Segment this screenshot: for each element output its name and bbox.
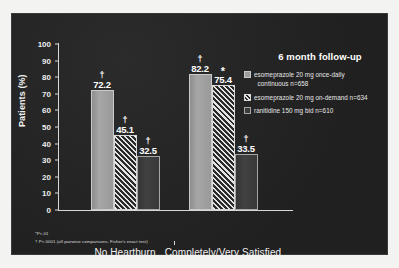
category-label: No Heartburn bbox=[94, 247, 155, 255]
y-tick-label: 80 bbox=[42, 73, 51, 82]
category-label: Completely/Very Satisfied bbox=[165, 247, 281, 255]
legend-title: 6 month follow-up bbox=[254, 51, 386, 62]
y-tick-label: 0 bbox=[47, 206, 51, 215]
bar-significance-marker: † bbox=[243, 135, 248, 144]
legend-swatch bbox=[244, 107, 251, 114]
legend-label: esomeprazole 20 mg on-demand n=634 bbox=[254, 93, 368, 102]
footnote-star: *P<.01 bbox=[35, 230, 148, 237]
category-divider-tick bbox=[174, 241, 175, 245]
legend-item: ranitidine 150 mg bid n=610 bbox=[244, 106, 386, 115]
y-tick-label: 10 bbox=[42, 189, 51, 198]
legend-item: esomeprazole 20 mg once-daily continuous… bbox=[244, 70, 386, 88]
legend-swatch bbox=[244, 71, 251, 78]
legend-label: ranitidine 150 mg bid n=610 bbox=[254, 106, 333, 115]
y-tick-mark bbox=[55, 44, 59, 45]
legend-swatch bbox=[244, 94, 251, 101]
y-tick-mark bbox=[55, 143, 59, 144]
bar-value-label: 33.5 bbox=[237, 143, 255, 154]
y-tick-mark bbox=[55, 60, 59, 61]
bar-value-label: 45.1 bbox=[116, 124, 134, 135]
footnote-dagger: † P<.0001 (all pairwise comparisons, Fis… bbox=[35, 238, 148, 245]
y-axis-title: Patients (%) bbox=[17, 74, 27, 127]
bar-significance-marker: † bbox=[99, 71, 104, 80]
y-tick-label: 60 bbox=[42, 106, 51, 115]
bar-value-label: 32.5 bbox=[139, 145, 157, 156]
bar-significance-marker: † bbox=[122, 116, 127, 125]
bar: 32.5† bbox=[137, 156, 160, 210]
bar: 82.2† bbox=[189, 74, 212, 210]
y-tick-label: 90 bbox=[42, 56, 51, 65]
chart-panel: Patients (%) 0102030405060708090100 72.2… bbox=[11, 13, 388, 255]
bar-significance-marker: † bbox=[145, 137, 150, 146]
y-tick-label: 100 bbox=[38, 40, 51, 49]
x-axis-line bbox=[58, 210, 293, 211]
plot-area: 0102030405060708090100 72.2†45.1†32.5†82… bbox=[59, 44, 259, 210]
bar-significance-marker: * bbox=[221, 66, 225, 77]
bar: 45.1† bbox=[114, 135, 137, 210]
y-tick-label: 40 bbox=[42, 139, 51, 148]
slide-canvas: Patients (%) 0102030405060708090100 72.2… bbox=[0, 0, 399, 268]
legend-item: esomeprazole 20 mg on-demand n=634 bbox=[244, 93, 386, 102]
y-tick-label: 30 bbox=[42, 156, 51, 165]
y-tick-label: 50 bbox=[42, 123, 51, 132]
y-tick-mark bbox=[55, 193, 59, 194]
legend-label: esomeprazole 20 mg once-daily continuous… bbox=[254, 70, 345, 88]
y-tick-mark bbox=[55, 127, 59, 128]
y-tick-mark bbox=[55, 176, 59, 177]
y-tick-mark bbox=[55, 160, 59, 161]
bar: 72.2† bbox=[91, 90, 114, 210]
chart-legend: 6 month follow-up esomeprazole 20 mg onc… bbox=[244, 51, 386, 120]
y-tick-mark bbox=[55, 93, 59, 94]
bar-value-label: 72.2 bbox=[93, 79, 111, 90]
bar-value-label: 82.2 bbox=[191, 63, 209, 74]
footnotes: *P<.01 † P<.0001 (all pairwise compariso… bbox=[35, 230, 148, 245]
bar: 75.4* bbox=[212, 85, 235, 210]
y-tick-label: 20 bbox=[42, 172, 51, 181]
y-tick-mark bbox=[55, 110, 59, 111]
bar: 33.5† bbox=[235, 154, 258, 210]
y-tick-mark bbox=[55, 77, 59, 78]
legend-items: esomeprazole 20 mg once-daily continuous… bbox=[244, 70, 386, 116]
bar-significance-marker: † bbox=[197, 55, 202, 64]
y-tick-label: 70 bbox=[42, 89, 51, 98]
y-tick-mark bbox=[55, 210, 59, 211]
